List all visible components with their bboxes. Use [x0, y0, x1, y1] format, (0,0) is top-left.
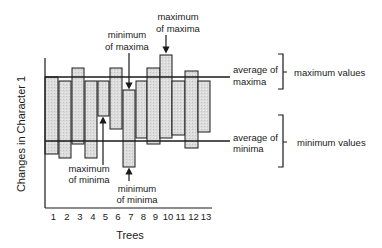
x-tick-label: 4	[90, 211, 95, 222]
bar-group	[45, 55, 210, 167]
maximum-values-bracket	[278, 54, 287, 89]
tree-range-bar	[147, 68, 160, 144]
y-axis-title: Changes in Character 1	[15, 76, 27, 192]
x-tick-label: 11	[176, 211, 186, 222]
x-tick-label: 5	[103, 211, 108, 222]
tree-range-bar	[160, 55, 172, 138]
x-tick-labels: 12345678910111213	[51, 211, 211, 222]
tree-range-bar	[45, 77, 58, 154]
x-tick-label: 13	[201, 211, 212, 222]
max-of-minima-label-1: maximum	[68, 163, 109, 174]
x-tick-label: 9	[153, 211, 158, 222]
x-tick-label: 6	[115, 211, 120, 222]
max-of-maxima-label-1: maximum	[157, 11, 198, 22]
avg-of-maxima-label-1: average of	[233, 64, 278, 75]
tree-range-bar	[59, 81, 71, 158]
tree-range-bar	[72, 68, 84, 144]
max-of-minima-label-2: of minima	[68, 174, 110, 185]
x-tick-label: 7	[128, 211, 133, 222]
avg-of-minima-label-2: minima	[233, 143, 264, 154]
maximum-values-label: maximum values	[294, 67, 366, 78]
tree-range-bar	[85, 81, 97, 158]
tree-range-bar	[136, 81, 147, 138]
tree-range-bar	[98, 81, 109, 116]
tree-range-bar	[172, 81, 185, 135]
x-tick-label: 1	[51, 211, 56, 222]
x-tick-label: 10	[163, 211, 174, 222]
avg-of-minima-label-1: average of	[233, 132, 278, 143]
x-tick-label: 8	[141, 211, 146, 222]
minimum-values-bracket	[278, 115, 287, 167]
min-of-minima-label-2: of minima	[116, 194, 158, 205]
tree-range-bar	[198, 81, 210, 132]
x-tick-label: 12	[188, 211, 199, 222]
x-axis-title: Trees	[116, 229, 144, 241]
min-of-maxima-label-1: minimum	[108, 29, 147, 40]
x-tick-label: 3	[77, 211, 82, 222]
x-tick-label: 2	[64, 211, 69, 222]
min-of-maxima-label-2: of maxima	[105, 41, 150, 52]
diagram-canvas: 12345678910111213 Trees Changes in Chara…	[0, 0, 382, 248]
tree-range-bar	[185, 71, 198, 148]
max-of-maxima-label-2: of maxima	[156, 23, 201, 34]
tree-range-bar	[123, 90, 135, 167]
min-of-minima-label-1: minimum	[118, 183, 157, 194]
avg-of-maxima-label-2: maxima	[233, 76, 267, 87]
minimum-values-label: minimum values	[297, 137, 366, 148]
